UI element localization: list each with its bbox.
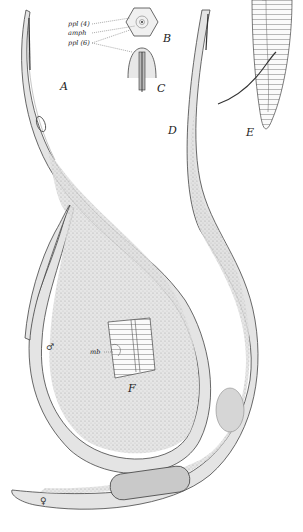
panel-E-tail [218,0,292,129]
label-amph: amph [68,29,86,37]
label-ppl6: ppl (6) [68,39,90,47]
ovary-cell [216,388,244,432]
panel-label-C: C [157,82,166,95]
panel-label-E: E [245,126,254,139]
panel-C-head [128,48,156,92]
panel-label-B: B [162,32,171,45]
panel-label-A: A [59,80,68,93]
panel-label-D: D [167,124,177,137]
leader-ppl4 [92,18,130,24]
panel-label-F: F [127,382,136,395]
male-symbol: ♂ [46,342,54,352]
nematode-plate: ppl (4) amph ppl (6) B C A D E mb F ♂ ♀ [0,0,303,532]
leader-ppl6 [92,30,132,52]
label-ppl4: ppl (4) [68,20,90,28]
female-symbol: ♀ [40,496,47,506]
panel-B-en-face [126,8,158,36]
label-mb: mb [90,348,100,356]
panel-F-cuticle [108,318,155,378]
pharynx-line [29,18,30,70]
